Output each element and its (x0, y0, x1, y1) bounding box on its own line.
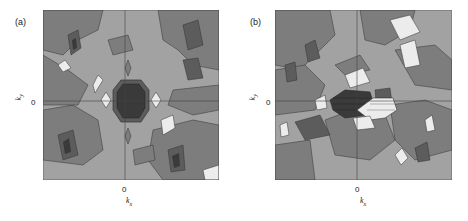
panel-a-label: (a) (15, 17, 26, 27)
panel-b-xtick-0: 0 (355, 185, 359, 194)
contour-plot-a (43, 10, 219, 180)
panel-a-xlabel: kx (126, 196, 132, 207)
panel-b-label: (b) (250, 17, 261, 27)
panel-a-ytick-0: 0 (31, 98, 35, 107)
panel-a-xtick-0: 0 (122, 185, 126, 194)
contour-plot-b (275, 10, 452, 180)
panel-b-xlabel: kx (360, 196, 366, 207)
panel-b-ytick-0: 0 (266, 98, 270, 107)
panel-a-ylabel: ky (14, 94, 25, 100)
panel-b-ylabel: ky (248, 94, 259, 100)
